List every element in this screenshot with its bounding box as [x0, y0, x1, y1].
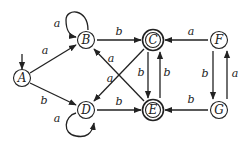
edge-F-C: a — [165, 25, 208, 41]
svg-text:b: b — [137, 66, 144, 79]
svg-text:A: A — [17, 71, 27, 85]
svg-text:b: b — [115, 25, 122, 38]
svg-text:B: B — [81, 33, 91, 47]
automaton-diagram: a b a b a a b b a b — [0, 0, 252, 146]
edge-A-B: a — [30, 44, 76, 74]
svg-text:a: a — [54, 112, 61, 125]
edge-B-C: b — [97, 25, 141, 41]
edge-A-D: b — [30, 83, 76, 107]
svg-text:F: F — [214, 33, 224, 47]
edge-D-E: b — [97, 95, 141, 111]
svg-text:E: E — [148, 103, 158, 117]
svg-text:b: b — [163, 66, 170, 79]
state-F: F — [211, 32, 228, 49]
svg-text:a: a — [107, 72, 114, 85]
edge-G-E: b — [165, 93, 208, 111]
state-A: A — [14, 70, 31, 87]
edge-F-G: b — [201, 51, 213, 99]
svg-text:a: a — [108, 52, 115, 65]
state-E-accepting: E — [143, 100, 164, 121]
state-G: G — [211, 102, 228, 119]
svg-text:G: G — [214, 103, 224, 117]
svg-text:b: b — [201, 67, 208, 80]
edge-C-E: b — [137, 52, 148, 98]
svg-text:b: b — [40, 94, 47, 107]
state-D: D — [78, 102, 95, 119]
svg-text:C: C — [148, 33, 157, 47]
svg-text:b: b — [187, 93, 194, 106]
edge-G-F: a — [227, 51, 238, 99]
svg-text:a: a — [54, 17, 61, 30]
svg-text:b: b — [115, 95, 122, 108]
svg-text:a: a — [232, 67, 239, 80]
svg-text:D: D — [80, 103, 91, 117]
edge-E-C: b — [160, 52, 171, 98]
svg-text:a: a — [42, 44, 49, 57]
svg-text:a: a — [188, 25, 195, 38]
state-C-accepting: C — [143, 30, 164, 51]
state-B: B — [78, 32, 95, 49]
